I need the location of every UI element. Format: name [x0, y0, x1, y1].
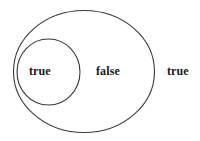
- venn-diagram-canvas: true false true: [0, 0, 200, 141]
- outer-ellipse-label: false: [96, 65, 120, 77]
- outside-region-label: true: [167, 65, 189, 77]
- inner-circle-label: true: [29, 65, 51, 77]
